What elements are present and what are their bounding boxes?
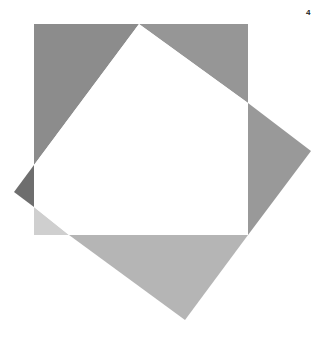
overlapping-squares-figure (0, 0, 331, 338)
bottom-triangle (69, 235, 248, 320)
right-triangle (248, 103, 311, 235)
left-dark-triangle (14, 165, 34, 207)
